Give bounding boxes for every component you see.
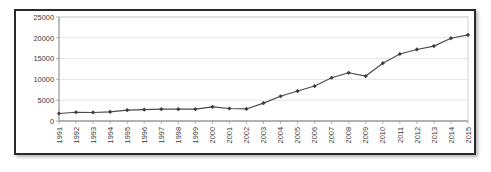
- x-axis-tick-label: 1993: [89, 127, 98, 143]
- data-point-marker: [398, 52, 402, 56]
- data-point-marker: [449, 36, 453, 40]
- x-axis-tick-label: 2000: [208, 127, 217, 143]
- plot-area-border: [59, 17, 468, 121]
- x-axis-tick-label: 1996: [140, 127, 149, 143]
- y-axis-tick-labels: 0500010000150002000025000: [33, 13, 54, 126]
- gridlines-group: [59, 17, 468, 121]
- y-axis-tick-label: 25000: [33, 13, 54, 22]
- data-point-marker: [74, 110, 78, 114]
- x-axis-tick-label: 2015: [464, 127, 473, 143]
- x-axis-tick-label: 2004: [276, 127, 285, 143]
- x-axis-tick-label: 1995: [123, 127, 132, 143]
- data-series-group: [57, 33, 470, 116]
- x-axis-tick-label: 2011: [396, 127, 405, 143]
- x-axis-tick-label: 1998: [174, 127, 183, 143]
- x-axis-tick-label: 2012: [413, 127, 422, 143]
- x-axis-tick-label: 2005: [293, 127, 302, 143]
- data-point-marker: [278, 94, 282, 98]
- line-chart: 0500010000150002000025000 19911992199319…: [16, 11, 474, 153]
- x-axis-tick-label: 1997: [157, 127, 166, 143]
- data-point-marker: [295, 89, 299, 93]
- x-axis-tick-label: 1994: [106, 127, 115, 143]
- x-axis-tick-label: 2003: [259, 127, 268, 143]
- x-axis-tick-label: 2013: [430, 127, 439, 143]
- data-point-marker: [159, 107, 163, 111]
- data-point-marker: [125, 108, 129, 112]
- x-axis-tick-label: 2002: [242, 127, 251, 143]
- x-axis-tick-label: 2001: [225, 127, 234, 143]
- data-point-marker: [57, 111, 61, 115]
- y-axis-tick-label: 20000: [33, 34, 54, 43]
- data-point-marker: [347, 71, 351, 75]
- x-axis-tick-label: 2009: [361, 127, 370, 143]
- y-axis-tick-label: 0: [50, 117, 54, 126]
- data-point-marker: [142, 107, 146, 111]
- plot-border-group: [59, 17, 468, 121]
- x-axis-tick-label: 2008: [344, 127, 353, 143]
- data-point-marker: [415, 47, 419, 51]
- y-axis-tick-label: 10000: [33, 75, 54, 84]
- data-point-marker: [466, 33, 470, 37]
- axis-lines-group: [59, 17, 468, 121]
- chart-frame: 0500010000150002000025000 19911992199319…: [14, 9, 476, 155]
- x-axis-tick-label: 2006: [310, 127, 319, 143]
- figure: 0500010000150002000025000 19911992199319…: [0, 0, 491, 172]
- data-point-marker: [176, 107, 180, 111]
- x-axis-tick-label: 1992: [72, 127, 81, 143]
- x-axis-tick-labels: 1991199219931994199519961997199819992000…: [55, 127, 473, 143]
- x-axis-tick-label: 2014: [447, 127, 456, 143]
- data-point-marker: [91, 110, 95, 114]
- x-axis-tick-label: 2010: [378, 127, 387, 143]
- data-point-marker: [193, 107, 197, 111]
- x-axis-tick-label: 2007: [327, 127, 336, 143]
- data-point-marker: [108, 110, 112, 114]
- data-point-marker: [313, 84, 317, 88]
- x-axis-tick-label: 1999: [191, 127, 200, 143]
- data-point-marker: [244, 107, 248, 111]
- data-point-marker: [227, 106, 231, 110]
- y-axis-tick-label: 15000: [33, 54, 54, 63]
- data-point-marker: [261, 101, 265, 105]
- x-axis-tick-label: 1991: [55, 127, 64, 143]
- data-point-marker: [210, 105, 214, 109]
- data-point-marker: [432, 44, 436, 48]
- chart-area: 0500010000150002000025000 19911992199319…: [16, 11, 474, 153]
- y-axis-tick-label: 5000: [38, 96, 54, 105]
